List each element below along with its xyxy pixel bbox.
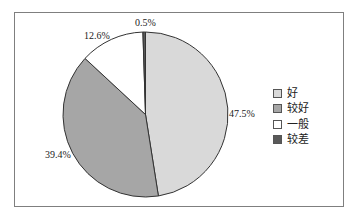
legend-swatch <box>273 89 282 98</box>
data-label-jiaohao: 39.4% <box>45 150 71 160</box>
legend-swatch <box>273 135 282 144</box>
data-label-yiban: 12.6% <box>84 31 110 41</box>
legend-swatch <box>273 120 282 129</box>
legend-label: 较差 <box>287 134 309 145</box>
data-label-jiaocha: 0.5% <box>135 18 156 28</box>
slice-hao <box>146 32 228 196</box>
legend-label: 较好 <box>287 103 309 114</box>
legend-label: 好 <box>287 88 298 99</box>
legend-item-jiaohao: 较好 <box>273 101 309 116</box>
legend-item-jiaocha: 较差 <box>273 132 309 147</box>
legend-item-yiban: 一般 <box>273 117 309 132</box>
legend-label: 一般 <box>287 119 309 130</box>
legend: 好 较好 一般 较差 <box>273 86 309 147</box>
legend-swatch <box>273 104 282 113</box>
data-label-hao: 47.5% <box>229 109 255 119</box>
legend-item-hao: 好 <box>273 86 309 101</box>
